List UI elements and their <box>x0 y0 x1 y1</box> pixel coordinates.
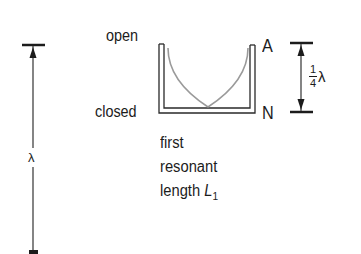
length-subscript: 1 <box>212 190 218 202</box>
caption: first resonant length L1 <box>160 131 218 208</box>
diagram-graphics <box>0 0 361 254</box>
quarter-wavelength-label: 1 4 λ <box>309 64 326 89</box>
closed-end-label: closed <box>95 104 137 120</box>
fraction-one-quarter: 1 4 <box>309 64 317 89</box>
resonance-tube-diagram: open closed A N 1 4 λ λ first resonant l… <box>0 0 361 254</box>
lambda-symbol: λ <box>318 68 326 85</box>
fraction-numerator: 1 <box>310 64 316 75</box>
standing-wave-envelope <box>168 48 248 107</box>
caption-line-1: first <box>160 131 218 155</box>
antinode-label: A <box>262 37 273 55</box>
length-variable: L <box>204 182 212 199</box>
caption-length-text: length <box>160 182 204 199</box>
resonance-tube <box>159 44 255 113</box>
wavelength-label: λ <box>28 148 35 167</box>
caption-line-2: resonant <box>160 155 218 179</box>
node-label: N <box>262 104 274 122</box>
open-end-label: open <box>106 28 138 44</box>
caption-line-3: length L1 <box>160 179 218 208</box>
fraction-denominator: 4 <box>310 78 316 89</box>
